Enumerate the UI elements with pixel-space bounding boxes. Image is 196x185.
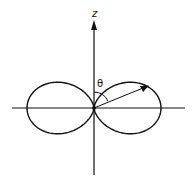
- origin-dot: [92, 106, 96, 110]
- radius-vector: [94, 88, 143, 108]
- theta-label: θ: [97, 78, 103, 89]
- z-axis-label: z: [91, 8, 98, 19]
- theta-arc: [94, 92, 108, 101]
- radiation-pattern-diagram: z θ: [0, 0, 196, 185]
- z-axis-arrowhead: [91, 20, 97, 30]
